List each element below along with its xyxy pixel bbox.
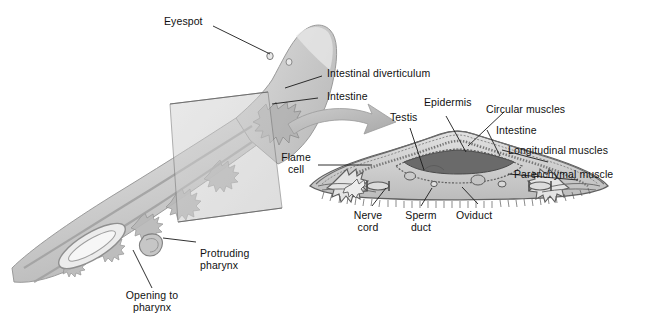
protruding-pharynx — [139, 234, 162, 256]
label-opening-to-pharynx-line2: pharynx — [104, 302, 200, 314]
label-flame-cell-line1: Flame — [274, 152, 318, 164]
oviduct-organ — [471, 175, 485, 185]
label-protruding-pharynx-line1: Protruding — [200, 248, 249, 260]
eyespot-right — [286, 59, 292, 66]
testis-organ — [405, 172, 416, 180]
label-eyespot: Eyespot — [164, 16, 203, 28]
label-protruding-pharynx-line2: pharynx — [200, 260, 238, 272]
label-sperm-duct-line2: duct — [394, 222, 448, 234]
label-intestine-section: Intestine — [496, 125, 537, 137]
label-testis: Testis — [390, 112, 417, 124]
cut-plane — [170, 92, 282, 222]
label-parenchymal-muscle: Parenchymal muscle — [514, 169, 613, 181]
leader-protruding-pharynx — [163, 238, 196, 242]
label-nerve-cord-line1: Nerve — [340, 210, 396, 222]
label-opening-to-pharynx-line1: Opening to — [104, 290, 200, 302]
label-sperm-duct-line1: Sperm — [394, 210, 448, 222]
eyespot-left — [267, 52, 273, 59]
label-intestinal-diverticulum: Intestinal diverticulum — [327, 68, 430, 80]
illustration — [0, 0, 655, 329]
sperm-duct-organ — [431, 181, 437, 186]
accessory-organ — [498, 181, 506, 187]
label-oviduct: Oviduct — [456, 210, 492, 222]
anatomy-figure: Eyespot Intestinal diverticulum Intestin… — [0, 0, 655, 329]
label-longitudinal-muscles: Longitudinal muscles — [508, 145, 608, 157]
leader-eyespot — [213, 26, 270, 54]
label-epidermis: Epidermis — [424, 97, 472, 109]
label-circular-muscles: Circular muscles — [486, 104, 565, 116]
label-nerve-cord-line2: cord — [340, 222, 396, 234]
label-flame-cell-line2: cell — [274, 164, 318, 176]
label-intestine-whole: Intestine — [327, 91, 368, 103]
